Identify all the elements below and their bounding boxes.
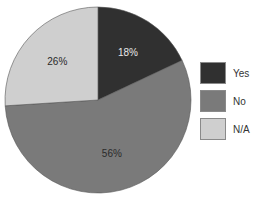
legend-swatch-na [200,118,226,140]
slice-no-label: 56% [102,148,122,159]
legend-label-yes: Yes [233,68,249,79]
legend-item-no: No [200,90,250,112]
pie-slices [5,7,191,193]
legend-item-yes: Yes [200,62,250,84]
slice-yes-label: 18% [118,47,138,58]
pie-chart: 18%56%26% [0,0,200,202]
legend-label-na: N/A [233,124,250,135]
slice-na-label: 26% [47,56,67,67]
legend-swatch-yes [200,62,226,84]
legend-item-na: N/A [200,118,250,140]
legend-label-no: No [233,96,246,107]
legend-swatch-no [200,90,226,112]
legend: Yes No N/A [200,62,250,146]
